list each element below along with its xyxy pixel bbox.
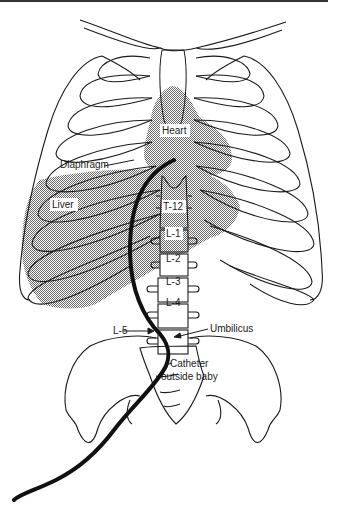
label-umbilicus: Umbilicus — [210, 323, 253, 334]
label-l4: L-4 — [166, 297, 181, 308]
label-liver: Liver — [52, 199, 74, 210]
label-catheter-line2: outside baby — [161, 371, 218, 382]
label-l3: L-3 — [166, 276, 181, 287]
clavicles — [80, 20, 286, 51]
label-l2: L-2 — [166, 253, 181, 264]
label-l5: L-5 — [113, 325, 128, 336]
label-diaphragm: Diaphragm — [60, 159, 109, 170]
vertebra-l5 — [158, 330, 188, 354]
label-t12: T-12 — [163, 201, 183, 212]
label-catheter-line1: Catheter — [170, 358, 209, 369]
label-l1: L-1 — [166, 228, 181, 239]
label-heart: Heart — [162, 125, 187, 136]
catheter-anatomy-diagram: Heart Diaphragm Liver T-12 L-1 L-2 L-3 L… — [0, 0, 338, 515]
